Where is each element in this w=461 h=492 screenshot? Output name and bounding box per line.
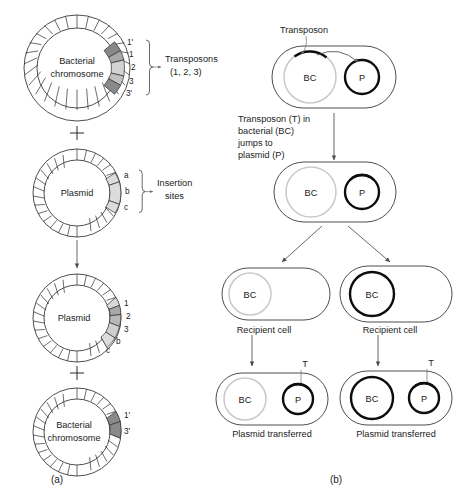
recombinant-label-c: c bbox=[106, 346, 110, 355]
plus-sign-2 bbox=[70, 366, 84, 380]
chromosome-label-line1: Bacterial bbox=[59, 56, 95, 66]
panel-label-a: (a) bbox=[51, 474, 63, 485]
recipient-left-bc-label: BC bbox=[244, 290, 257, 300]
transposons-annotation-line2: (1, 2, 3) bbox=[170, 67, 202, 77]
plasmid-label: Plasmid bbox=[61, 188, 94, 198]
donor-bc-label: BC bbox=[304, 73, 317, 83]
panel-b-step2-donor-after-jump bbox=[274, 162, 396, 222]
jumped-bc-label: BC bbox=[305, 188, 318, 198]
arrow-branch-right bbox=[348, 226, 390, 262]
arrow-branch-left bbox=[282, 226, 322, 262]
transposons-annotation-line1: Transposons bbox=[165, 54, 218, 64]
residual-label-1prime: 1' bbox=[124, 411, 131, 420]
residual-label-3prime: 3' bbox=[124, 427, 131, 436]
segment-label-3prime: 3' bbox=[126, 89, 133, 98]
panel-b-result-right bbox=[340, 369, 452, 425]
insertion-site-label-c: c bbox=[124, 203, 128, 212]
result-right-t-label: T bbox=[428, 358, 434, 368]
segment-label-1: 1 bbox=[129, 50, 134, 59]
result-left-t-label: T bbox=[302, 359, 308, 369]
result-right-p-label: P bbox=[421, 394, 427, 404]
panel-label-b: (b) bbox=[330, 474, 342, 485]
recombinant-label-3: 3 bbox=[124, 325, 129, 334]
result-left-p-label: P bbox=[295, 395, 301, 405]
result-left-bc-label: BC bbox=[239, 395, 252, 405]
segment-label-2: 2 bbox=[131, 63, 136, 72]
recipient-left-caption: Recipient cell bbox=[237, 325, 292, 335]
transposon-label: Transposon bbox=[280, 25, 328, 35]
panel-b-recipient-right bbox=[340, 266, 452, 322]
figure-root: Bacterial chromosome 1' 1 2 3 3' Transpo… bbox=[0, 0, 461, 492]
recombinant-plasmid-label: Plasmid bbox=[58, 313, 91, 323]
insertion-sites-annotation-line1: Insertion bbox=[157, 178, 192, 188]
donor-p-label: P bbox=[359, 73, 365, 83]
segment-label-3: 3 bbox=[129, 77, 134, 86]
caption-jump-line2: bacterial (BC) bbox=[238, 126, 294, 136]
residual-chromosome-line1: Bacterial bbox=[56, 420, 92, 430]
insertion-site-label-a: a bbox=[124, 171, 129, 180]
segment-label-1prime: 1' bbox=[127, 38, 134, 47]
recipient-right-caption: Recipient cell bbox=[363, 325, 418, 335]
caption-jump-line4: plasmid (P) bbox=[238, 150, 284, 160]
jumped-p-label: P bbox=[359, 188, 365, 198]
recombinant-label-1: 1 bbox=[124, 299, 129, 308]
chromosome-label-line2: chromosome bbox=[50, 69, 103, 79]
panel-b-step1-donor-cell bbox=[272, 36, 396, 108]
insertion-site-label-b: b bbox=[125, 187, 130, 196]
insertion-sites-annotation-line2: sites bbox=[165, 191, 184, 201]
plus-sign-1 bbox=[70, 126, 84, 140]
result-left-caption: Plasmid transferred bbox=[232, 429, 312, 439]
caption-jump-line3: jumps to bbox=[237, 138, 273, 148]
recombinant-label-b: b bbox=[116, 337, 121, 346]
panel-b-recipient-left bbox=[222, 268, 330, 320]
caption-jump-line1: Transposon (T) in bbox=[238, 114, 310, 124]
recipient-right-bc-label: BC bbox=[366, 290, 379, 300]
panel-b-result-left bbox=[216, 370, 328, 425]
panel-a-step1-chromosome bbox=[24, 15, 161, 121]
result-right-bc-label: BC bbox=[366, 394, 379, 404]
residual-chromosome-line2: chromosome bbox=[47, 433, 100, 443]
diagram-canvas: Bacterial chromosome 1' 1 2 3 3' Transpo… bbox=[0, 0, 461, 492]
result-right-caption: Plasmid transferred bbox=[356, 429, 436, 439]
panel-a-step4-residual-chromosome bbox=[33, 388, 121, 476]
recombinant-label-2: 2 bbox=[126, 312, 131, 321]
